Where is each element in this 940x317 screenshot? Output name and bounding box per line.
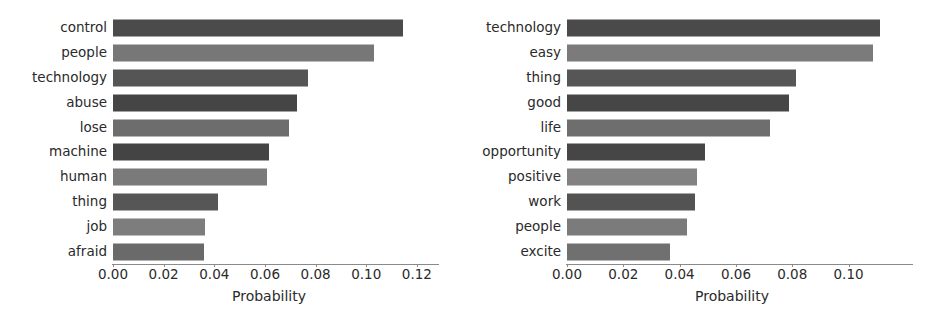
- bar-category-label: abuse: [66, 96, 107, 110]
- x-tick-label: 0.04: [199, 268, 229, 282]
- x-tick-label: 0.06: [721, 268, 751, 282]
- x-tick-label: 0.08: [777, 268, 807, 282]
- bar: [567, 193, 695, 210]
- bar: [113, 193, 218, 210]
- x-tick-label: 0.02: [149, 268, 179, 282]
- bar: [113, 119, 289, 136]
- right-bar-group: technologyeasythinggoodlifeopportunitypo…: [567, 16, 897, 264]
- bar-category-label: people: [61, 46, 107, 60]
- bar-category-label: people: [515, 220, 561, 234]
- bar-category-label: technology: [486, 22, 561, 36]
- bar-category-label: opportunity: [482, 146, 561, 160]
- bar-category-label: excite: [520, 245, 561, 259]
- x-tick-label: 0.10: [834, 268, 864, 282]
- bar: [113, 69, 308, 86]
- bar-row: human: [113, 165, 425, 190]
- left-chart-panel: controlpeopletechnologyabuselosemachineh…: [0, 0, 470, 317]
- bar-category-label: afraid: [68, 245, 107, 259]
- right-x-axis-title: Probability: [567, 288, 897, 304]
- bar-row: people: [113, 41, 425, 66]
- x-tick-label: 0.02: [608, 268, 638, 282]
- bar-row: thing: [567, 66, 897, 91]
- bar-category-label: control: [60, 22, 107, 36]
- x-tick-label: 0.04: [665, 268, 695, 282]
- x-tick-mark: [736, 264, 737, 267]
- bar: [113, 45, 374, 62]
- bar-category-label: job: [86, 220, 107, 234]
- bar: [567, 94, 789, 111]
- bar: [567, 218, 687, 235]
- bar: [567, 243, 670, 260]
- x-tick-mark: [623, 264, 624, 267]
- bar: [567, 20, 880, 37]
- bar-row: opportunity: [567, 140, 897, 165]
- x-tick-label: 0.06: [250, 268, 280, 282]
- x-tick-label: 0.00: [98, 268, 128, 282]
- bar: [113, 144, 269, 161]
- bar: [113, 94, 297, 111]
- bar-row: thing: [113, 190, 425, 215]
- bar-category-label: life: [540, 121, 561, 135]
- x-tick-mark: [680, 264, 681, 267]
- bar-row: life: [567, 115, 897, 140]
- right-plot-area: technologyeasythinggoodlifeopportunitypo…: [567, 16, 897, 264]
- x-tick-mark: [567, 264, 568, 267]
- bar-row: positive: [567, 165, 897, 190]
- bar-category-label: thing: [72, 195, 107, 209]
- x-tick-mark: [214, 264, 215, 267]
- bar-category-label: good: [527, 96, 561, 110]
- bar: [567, 119, 770, 136]
- bar: [567, 69, 796, 86]
- right-x-tick-labels: 0.000.020.040.060.080.10: [567, 264, 897, 286]
- bar-category-label: work: [528, 195, 561, 209]
- bar-row: afraid: [113, 239, 425, 264]
- bar-category-label: positive: [508, 170, 561, 184]
- bar-category-label: human: [60, 170, 107, 184]
- bar: [113, 243, 204, 260]
- x-tick-mark: [316, 264, 317, 267]
- bar: [567, 169, 697, 186]
- bar-row: easy: [567, 41, 897, 66]
- x-tick-mark: [113, 264, 114, 267]
- bar-category-label: machine: [49, 146, 107, 160]
- x-tick-label: 0.08: [301, 268, 331, 282]
- two-panel-bar-chart-figure: controlpeopletechnologyabuselosemachineh…: [0, 0, 940, 317]
- left-x-axis-title: Probability: [113, 288, 425, 304]
- bar-row: technology: [567, 16, 897, 41]
- x-tick-mark: [265, 264, 266, 267]
- x-tick-label: 0.10: [351, 268, 381, 282]
- bar-row: abuse: [113, 90, 425, 115]
- bar-category-label: easy: [529, 46, 561, 60]
- bar: [567, 45, 873, 62]
- bar-category-label: thing: [526, 71, 561, 85]
- bar-row: good: [567, 90, 897, 115]
- x-tick-mark: [849, 264, 850, 267]
- bar: [113, 218, 205, 235]
- left-bar-group: controlpeopletechnologyabuselosemachineh…: [113, 16, 425, 264]
- bar: [113, 169, 267, 186]
- bar-row: control: [113, 16, 425, 41]
- bar-category-label: technology: [32, 71, 107, 85]
- right-chart-panel: technologyeasythinggoodlifeopportunitypo…: [470, 0, 940, 317]
- x-tick-mark: [417, 264, 418, 267]
- x-tick-mark: [366, 264, 367, 267]
- bar-row: technology: [113, 66, 425, 91]
- bar-row: excite: [567, 239, 897, 264]
- bar-row: machine: [113, 140, 425, 165]
- x-tick-label: 0.12: [402, 268, 432, 282]
- bar: [113, 20, 403, 37]
- left-plot-area: controlpeopletechnologyabuselosemachineh…: [113, 16, 425, 264]
- x-tick-mark: [164, 264, 165, 267]
- x-tick-mark: [792, 264, 793, 267]
- bar-row: lose: [113, 115, 425, 140]
- bar-row: work: [567, 190, 897, 215]
- bar-row: job: [113, 214, 425, 239]
- x-tick-label: 0.00: [552, 268, 582, 282]
- bar-category-label: lose: [80, 121, 107, 135]
- left-x-tick-labels: 0.000.020.040.060.080.100.12: [113, 264, 425, 286]
- bar: [567, 144, 705, 161]
- bar-row: people: [567, 214, 897, 239]
